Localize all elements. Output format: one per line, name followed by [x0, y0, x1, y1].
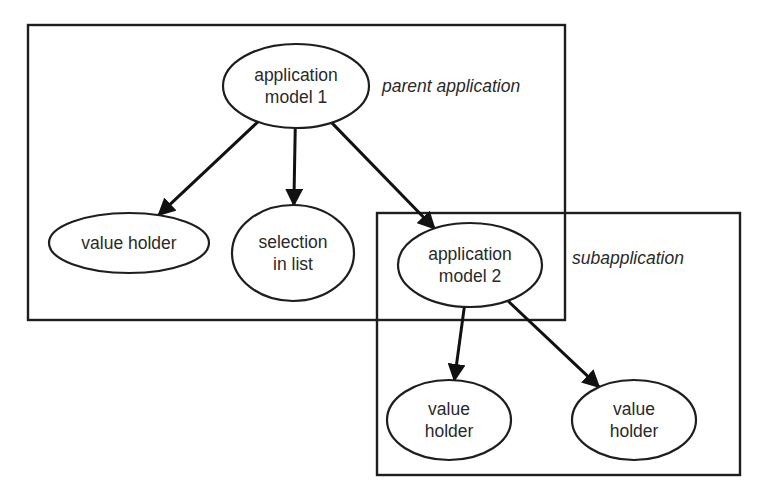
node-ellipse [572, 380, 696, 460]
node-label: in list [273, 254, 313, 274]
node-vh1: value holder [49, 213, 209, 273]
node-ellipse [232, 205, 354, 301]
node-label: application [254, 65, 338, 85]
sub-group-label: subapplication [572, 248, 684, 268]
parent-group-label: parent application [381, 76, 520, 96]
node-sel: selectionin list [232, 205, 354, 301]
edge-app1-to-vh1 [159, 122, 258, 215]
node-label: holder [425, 421, 474, 441]
diagram-canvas: applicationmodel 1value holderselectioni… [0, 0, 766, 501]
node-vh3: valueholder [572, 380, 696, 460]
node-label: holder [610, 421, 659, 441]
node-label: value holder [81, 233, 177, 253]
edge-app1-to-sel [294, 128, 295, 205]
node-label: model 2 [439, 266, 501, 286]
node-label: value [613, 399, 655, 419]
node-ellipse [398, 223, 542, 307]
node-vh2: valueholder [387, 380, 511, 460]
edge-app2-to-vh2 [454, 307, 464, 380]
node-app1: applicationmodel 1 [223, 44, 369, 128]
node-label: application [428, 244, 512, 264]
node-label: model 1 [265, 87, 327, 107]
node-label: value [428, 399, 470, 419]
node-app2: applicationmodel 2 [398, 223, 542, 307]
edge-app2-to-vh3 [508, 301, 599, 387]
node-ellipse [387, 380, 511, 460]
node-label: selection [258, 232, 327, 252]
node-ellipse [223, 44, 369, 128]
